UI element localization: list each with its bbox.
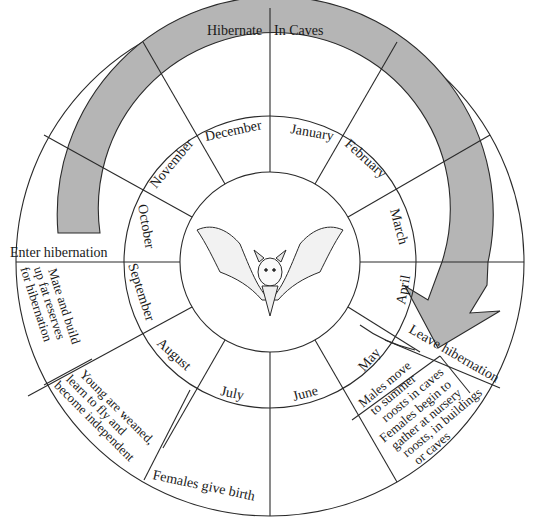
month-may: May bbox=[355, 345, 383, 374]
bat-life-cycle-diagram: January February March April May June Ju… bbox=[0, 0, 539, 522]
month-january: January bbox=[289, 121, 334, 143]
hibernate-label-part2: In Caves bbox=[274, 23, 323, 38]
hibernate-label-part1: Hibernate bbox=[207, 23, 262, 38]
divider-330 bbox=[143, 42, 225, 184]
month-november: November bbox=[147, 136, 197, 191]
females-give-birth-label: Females give birth bbox=[151, 467, 256, 503]
month-april: April bbox=[393, 274, 413, 306]
mate-text: Mate and build up fat reserves for hiber… bbox=[17, 257, 84, 355]
leave-hibernation-arc bbox=[360, 325, 415, 350]
month-february: February bbox=[342, 136, 390, 181]
month-october: October bbox=[135, 203, 158, 250]
enter-hibernation-label: Enter hibernation bbox=[10, 245, 108, 260]
bat-icon bbox=[197, 227, 343, 316]
month-august: August bbox=[154, 335, 194, 373]
divider-30 bbox=[315, 42, 397, 184]
month-september: September bbox=[125, 261, 158, 323]
weaned-text: Young are weaned, learn to fly and becom… bbox=[51, 359, 157, 465]
